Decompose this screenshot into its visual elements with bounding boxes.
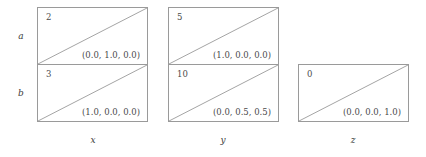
cell-id: 5: [177, 13, 182, 22]
cell-b-y[interactable]: 10 (0.0, 0.5, 0.5): [168, 64, 279, 122]
cell-a-y[interactable]: 5 (1.0, 0.0, 0.0): [168, 7, 279, 65]
cell-tuple: (1.0, 0.0, 0.0): [213, 51, 271, 60]
col-label-x: x: [83, 135, 103, 145]
diagram-canvas: a b x y z 2 (0.0, 1.0, 0.0) 5 (1.0, 0.0,…: [0, 0, 426, 157]
cell-id: 3: [46, 70, 51, 79]
cell-id: 10: [177, 70, 188, 79]
cell-tuple: (0.0, 0.0, 1.0): [343, 108, 401, 117]
row-label-b: b: [14, 88, 28, 98]
cell-tuple: (1.0, 0.0, 0.0): [82, 108, 140, 117]
col-label-z: z: [343, 135, 363, 145]
cell-id: 0: [307, 70, 312, 79]
cell-tuple: (0.0, 0.5, 0.5): [213, 108, 271, 117]
cell-id: 2: [46, 13, 51, 22]
cell-b-z[interactable]: 0 (0.0, 0.0, 1.0): [298, 64, 409, 122]
cell-b-x[interactable]: 3 (1.0, 0.0, 0.0): [37, 64, 148, 122]
col-label-y: y: [213, 135, 233, 145]
cell-tuple: (0.0, 1.0, 0.0): [82, 51, 140, 60]
cell-a-x[interactable]: 2 (0.0, 1.0, 0.0): [37, 7, 148, 65]
row-label-a: a: [14, 31, 28, 41]
